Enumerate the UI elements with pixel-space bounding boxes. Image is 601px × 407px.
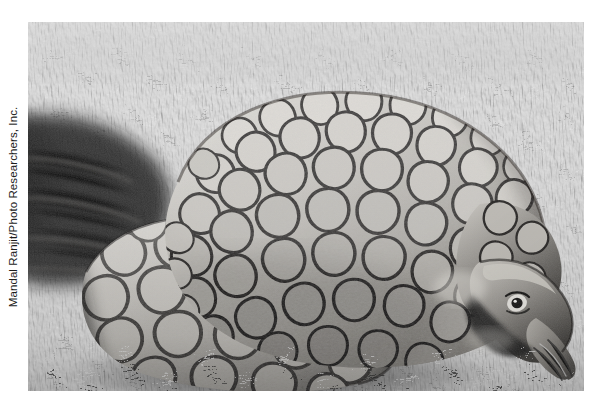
photo-canvas	[28, 22, 584, 391]
photo-credit-text: Mandal Ranjit/Photo Researchers, Inc.	[8, 107, 20, 308]
photo-credit: Mandal Ranjit/Photo Researchers, Inc.	[0, 22, 28, 392]
page-root: Mandal Ranjit/Photo Researchers, Inc.	[0, 0, 601, 407]
photo-content	[28, 22, 584, 391]
vignette	[28, 22, 584, 391]
pangolin-photograph	[28, 22, 584, 391]
